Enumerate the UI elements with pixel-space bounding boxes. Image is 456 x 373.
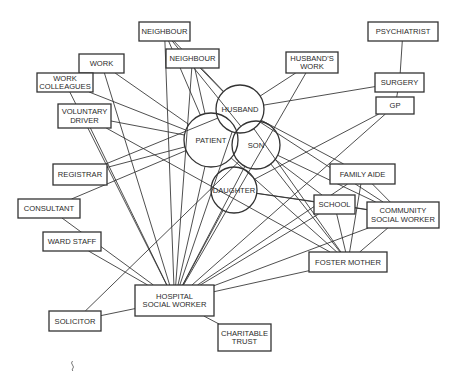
node-ward-staff: WARD STAFF bbox=[43, 232, 101, 251]
node-school: SCHOOL bbox=[314, 195, 355, 214]
node-consultant: CONSULTANT bbox=[18, 199, 80, 218]
edge-community-sw-to-foster-mother bbox=[360, 228, 388, 252]
node-registrar: REGISTRAR bbox=[53, 164, 107, 185]
node-family-aide: FAMILY AIDE bbox=[330, 164, 395, 184]
node-solicitor: SOLICITOR bbox=[49, 311, 101, 331]
node-hospital-sw: HOSPITALSOCIAL WORKER bbox=[135, 285, 214, 316]
node-charitable-trust: CHARITABLETRUST bbox=[218, 324, 271, 351]
node-daughter: DAUGHTER bbox=[211, 167, 257, 213]
stray-mark bbox=[72, 361, 74, 371]
edge-daughter-to-school bbox=[257, 193, 314, 201]
edge-surgery-to-husband bbox=[264, 87, 375, 106]
node-label: NEIGHBOUR bbox=[142, 27, 189, 36]
edge-work-to-hospital-sw bbox=[104, 73, 169, 285]
edge-family-aide-to-foster-mother bbox=[350, 184, 361, 252]
node-community-sw: COMMUNITYSOCIAL WORKER bbox=[367, 202, 439, 228]
node-label: TRUST bbox=[232, 337, 258, 346]
node-son: SON bbox=[232, 121, 280, 169]
node-label: PSYCHIATRIST bbox=[376, 27, 431, 36]
node-foster-mother: FOSTER MOTHER bbox=[309, 252, 387, 272]
node-label: NEIGHBOUR bbox=[170, 54, 217, 63]
edge-surgery-to-gp bbox=[397, 92, 398, 97]
node-label: SOLICITOR bbox=[55, 317, 96, 326]
edge-neighbour2-to-hospital-sw bbox=[176, 68, 192, 285]
node-psychiatrist: PSYCHIATRIST bbox=[368, 22, 438, 41]
node-surgery: SURGERY bbox=[375, 73, 424, 92]
node-neighbour1: NEIGHBOUR bbox=[139, 22, 190, 41]
node-label: REGISTRAR bbox=[58, 170, 103, 179]
edge-family-aide-to-community-sw bbox=[372, 184, 390, 202]
node-label: COLLEAGUES bbox=[39, 82, 91, 91]
node-label: WARD STAFF bbox=[48, 237, 97, 246]
node-label: SOCIAL WORKER bbox=[371, 215, 435, 224]
node-work: WORK bbox=[79, 54, 124, 73]
node-label: CONSULTANT bbox=[24, 204, 75, 213]
node-label: SON bbox=[248, 141, 264, 150]
nodes-layer: NEIGHBOURNEIGHBOURWORKWORKCOLLEAGUESVOLU… bbox=[18, 22, 439, 351]
node-label: FOSTER MOTHER bbox=[315, 258, 381, 267]
node-label: FAMILY AIDE bbox=[340, 170, 386, 179]
node-label: WORK bbox=[90, 59, 114, 68]
edge-hospital-sw-to-foster-mother bbox=[214, 271, 309, 292]
node-neighbour2: NEIGHBOUR bbox=[166, 49, 219, 68]
node-label: WORK bbox=[300, 62, 324, 71]
node-label: GP bbox=[390, 101, 401, 110]
node-label: DRIVER bbox=[70, 116, 99, 125]
edge-ward-staff-to-hospital-sw bbox=[89, 251, 148, 285]
node-label: HUSBAND bbox=[221, 105, 259, 114]
edge-school-to-foster-mother bbox=[337, 214, 346, 252]
edge-hospital-sw-to-daughter bbox=[183, 210, 223, 285]
node-gp: GP bbox=[376, 97, 414, 114]
edge-neighbour2-to-husband bbox=[201, 68, 223, 92]
node-label: SURGERY bbox=[381, 78, 418, 87]
node-label: DAUGHTER bbox=[213, 186, 256, 195]
support-network-diagram: NEIGHBOURNEIGHBOURWORKWORKCOLLEAGUESVOLU… bbox=[0, 0, 456, 373]
node-label: PATIENT bbox=[196, 136, 227, 145]
node-work-colleagues: WORKCOLLEAGUES bbox=[37, 73, 93, 92]
node-patient: PATIENT bbox=[184, 113, 238, 167]
edge-solicitor-to-hospital-sw bbox=[101, 309, 135, 316]
node-husbands-work: HUSBAND'SWORK bbox=[286, 52, 338, 73]
node-label: SCHOOL bbox=[318, 200, 350, 209]
node-label: SOCIAL WORKER bbox=[143, 300, 207, 309]
edge-psychiatrist-to-surgery bbox=[400, 41, 402, 73]
edge-husbands-work-to-husband bbox=[260, 73, 296, 96]
node-voluntary-driver: VOLUNTARYDRIVER bbox=[58, 104, 111, 128]
edge-hospital-sw-to-charitable-trust bbox=[204, 316, 219, 324]
edge-voluntary-driver-to-patient bbox=[111, 121, 185, 135]
